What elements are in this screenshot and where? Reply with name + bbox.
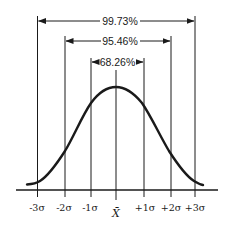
label-plus-2-sigma: +2σ bbox=[161, 202, 182, 213]
label-minus-1-sigma: -1σ bbox=[82, 202, 98, 213]
label-minus-3-sigma: -3σ bbox=[29, 202, 45, 213]
range-95-label: 95.46% bbox=[102, 35, 138, 47]
bell-curve bbox=[27, 87, 203, 185]
axis-labels: -3σ -2σ -1σ X̄ +1σ +2σ +3σ bbox=[29, 202, 206, 220]
normal-distribution-diagram: 99.73% 95.46% 68.26% -3σ -2σ -1σ X̄ +1σ … bbox=[0, 0, 229, 228]
range-99-label: 99.73% bbox=[102, 15, 138, 27]
label-plus-3-sigma: +3σ bbox=[185, 202, 206, 213]
range-68-label: 68.26% bbox=[100, 56, 136, 68]
diagram-canvas: 99.73% 95.46% 68.26% -3σ -2σ -1σ X̄ +1σ … bbox=[0, 0, 229, 228]
label-mean: X̄ bbox=[111, 207, 121, 220]
label-minus-2-sigma: -2σ bbox=[56, 202, 72, 213]
label-plus-1-sigma: +1σ bbox=[135, 202, 156, 213]
